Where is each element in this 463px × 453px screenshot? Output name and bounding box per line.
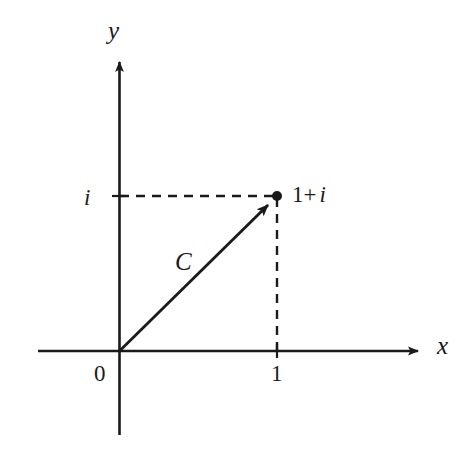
x-tick-label-1: 1 xyxy=(271,362,283,385)
y-tick-label-i: i xyxy=(84,186,90,209)
point-label-real-part: 1+ xyxy=(292,182,316,207)
origin-label: 0 xyxy=(94,362,106,385)
point-label-imaginary-part: i xyxy=(319,182,325,207)
point-label-one-plus-i: 1+i xyxy=(292,183,326,206)
y-axis-label: y xyxy=(108,18,119,43)
contour-vector-c xyxy=(120,205,269,351)
contour-label-c: C xyxy=(175,249,192,274)
x-axis-label: x xyxy=(437,333,448,358)
diagram-canvas xyxy=(0,0,463,453)
complex-plane-figure: y x 0 1 i 1+i C xyxy=(0,0,463,453)
endpoint-dot xyxy=(272,191,282,201)
